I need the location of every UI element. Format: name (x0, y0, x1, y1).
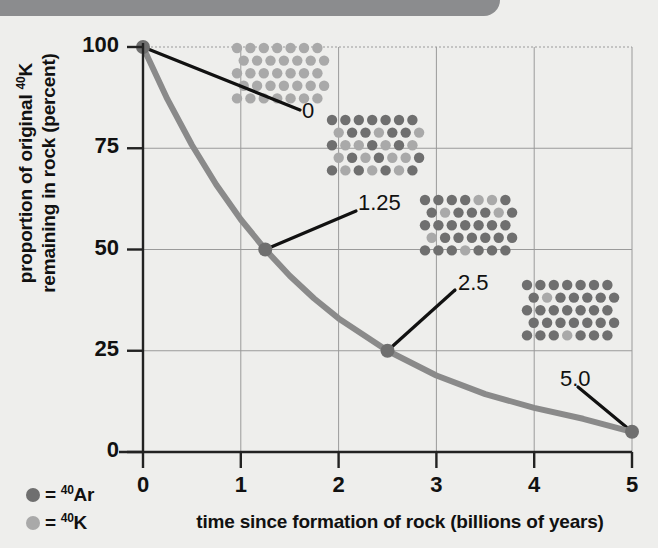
atom-k (401, 153, 411, 163)
atom-ar (407, 165, 417, 175)
atom-ar (522, 330, 532, 340)
atom-ar (447, 245, 457, 255)
atom-ar (380, 165, 390, 175)
atom-ar (555, 292, 565, 302)
atom-ar (500, 195, 510, 205)
x-axis-label: time since formation of rock (billions o… (150, 511, 650, 533)
atom-ar (562, 280, 572, 290)
atom-k (245, 68, 255, 78)
atom-ar (480, 233, 490, 243)
atom-ar (609, 318, 619, 328)
y-tick-label-0: 0 (59, 437, 119, 463)
atom-k (306, 55, 316, 65)
atom-ar (582, 292, 592, 302)
atom-ar (555, 318, 565, 328)
atom-k (245, 93, 255, 103)
atom-k (312, 68, 322, 78)
atom-ar (500, 220, 510, 230)
atom-ar (480, 207, 490, 217)
atom-ar (589, 280, 599, 290)
legend-item-ar: = 40Ar (26, 481, 94, 509)
data-point-2-5[interactable] (381, 344, 395, 358)
atom-ar (473, 220, 483, 230)
k-dot-icon (26, 516, 40, 530)
atom-ar (549, 330, 559, 340)
data-point-1-25[interactable] (258, 243, 272, 257)
atom-ar (407, 115, 417, 125)
atom-ar (367, 140, 377, 150)
annotation-0: 0 (302, 98, 314, 124)
atom-k (387, 153, 397, 163)
atom-k (272, 43, 282, 53)
atom-k (259, 68, 269, 78)
atom-k (285, 43, 295, 53)
atom-ar (487, 220, 497, 230)
atom-k (542, 292, 552, 302)
atom-ar (575, 280, 585, 290)
leader-line-2-5 (388, 290, 456, 351)
atom-grid-0 (232, 43, 329, 104)
atom-k (292, 55, 302, 65)
atom-ar (535, 280, 545, 290)
atom-k (306, 81, 316, 91)
atom-k (279, 81, 289, 91)
x-tick-label-2: 2 (319, 472, 359, 498)
atom-k (407, 140, 417, 150)
decay-chart-figure: proportion of original 40K remaining in … (0, 0, 658, 548)
atom-ar (596, 318, 606, 328)
atom-k (354, 140, 364, 150)
atom-ar (347, 153, 357, 163)
atom-ar (447, 195, 457, 205)
atom-k (394, 165, 404, 175)
y-tick-label-100: 100 (59, 32, 119, 58)
x-tick-label-4: 4 (514, 472, 554, 498)
atom-ar (387, 127, 397, 137)
atom-k (265, 55, 275, 65)
atom-k (232, 43, 242, 53)
legend-item-k: = 40K (26, 509, 94, 537)
atom-grid-5-0 (522, 280, 620, 341)
atom-k (487, 195, 497, 205)
atom-ar (394, 140, 404, 150)
atom-ar (569, 318, 579, 328)
atom-grid-1-25 (327, 115, 425, 176)
atom-ar (460, 220, 470, 230)
annotation-2-5: 2.5 (458, 270, 489, 296)
atom-ar (327, 115, 337, 125)
atom-ar (433, 220, 443, 230)
atom-grids (232, 43, 620, 341)
atom-ar (354, 165, 364, 175)
atom-ar (460, 195, 470, 205)
atom-ar (522, 280, 532, 290)
y-tick-label-50: 50 (59, 235, 119, 261)
atom-ar (549, 305, 559, 315)
atom-ar (374, 153, 384, 163)
leader-line-1-25 (265, 211, 356, 250)
atom-ar (596, 292, 606, 302)
y-axis-label: proportion of original 40K remaining in … (14, 8, 60, 338)
atom-k (460, 245, 470, 255)
atom-k (252, 81, 262, 91)
atom-k (494, 207, 504, 217)
atom-ar (609, 292, 619, 302)
atom-ar (420, 245, 430, 255)
atom-k (232, 93, 242, 103)
atom-k (473, 195, 483, 205)
atom-ar (394, 115, 404, 125)
atom-ar (440, 233, 450, 243)
atom-ar (380, 115, 390, 125)
atom-ar (589, 305, 599, 315)
atom-k (299, 43, 309, 53)
atom-ar (427, 207, 437, 217)
atom-ar (535, 330, 545, 340)
atom-ar (347, 127, 357, 137)
atom-k (562, 330, 572, 340)
atom-k (272, 68, 282, 78)
data-point-5-0[interactable] (625, 425, 639, 439)
atom-ar (494, 233, 504, 243)
atom-ar (507, 233, 517, 243)
annotation-5-0: 5.0 (560, 366, 591, 392)
gridlines (143, 47, 632, 452)
atom-k (374, 127, 384, 137)
atom-ar (575, 305, 585, 315)
